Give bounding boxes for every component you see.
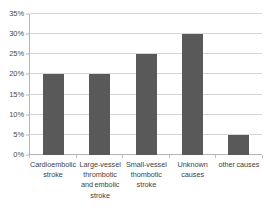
bar-series: [30, 14, 262, 155]
plot-area: [29, 14, 262, 155]
bar-slot: [216, 14, 262, 155]
x-axis-ticks: [29, 155, 262, 159]
bar[interactable]: [136, 54, 157, 155]
x-axis-category-label: Small-vessel thombotic stroke: [123, 160, 169, 191]
x-axis-tick: [262, 155, 263, 158]
bar-chart: 0%5%10%15%20%25%30%35% Cardioembolic str…: [0, 0, 266, 211]
x-axis-tick: [215, 155, 216, 158]
bar-slot: [76, 14, 122, 155]
x-axis-labels: Cardioembolic strokeLarge-vessel thrombo…: [29, 160, 262, 201]
x-axis-tick: [122, 155, 123, 158]
bar[interactable]: [228, 135, 249, 155]
y-axis-tick-label: 25%: [9, 50, 24, 58]
y-axis-tick-label: 35%: [9, 10, 24, 18]
x-axis-tick: [169, 155, 170, 158]
y-axis-tick-label: 10%: [9, 111, 24, 119]
y-axis-tick-label: 20%: [9, 70, 24, 78]
x-axis-tick: [29, 155, 30, 158]
y-axis-tick-label: 15%: [9, 91, 24, 99]
y-axis-labels: 0%5%10%15%20%25%30%35%: [0, 0, 29, 211]
x-axis-tick: [76, 155, 77, 158]
bar-slot: [169, 14, 215, 155]
bar-slot: [123, 14, 169, 155]
y-axis-tick-label: 0%: [13, 151, 24, 159]
bar[interactable]: [182, 34, 203, 155]
x-axis-category-label: other causes: [216, 160, 262, 170]
bar-slot: [30, 14, 76, 155]
x-axis-category-label: Cardioembolic stroke: [29, 160, 77, 180]
x-axis-category-label: Unknown causes: [170, 160, 216, 180]
bar[interactable]: [89, 74, 110, 155]
x-axis-category-label: Large-vessel thrombotic and embolic stro…: [77, 160, 123, 201]
bar[interactable]: [43, 74, 64, 155]
y-axis-tick-label: 30%: [9, 30, 24, 38]
y-axis-tick-label: 5%: [13, 131, 24, 139]
